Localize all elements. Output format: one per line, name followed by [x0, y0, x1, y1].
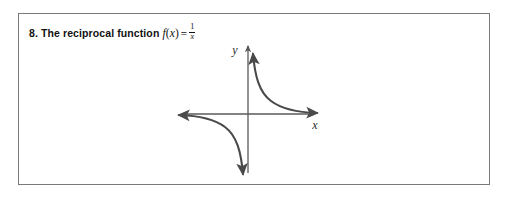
curve-path-negative	[179, 115, 243, 174]
curve-branch-positive	[253, 54, 317, 113]
graph-svg: y x	[19, 14, 491, 186]
y-axis-label: y	[231, 43, 238, 57]
curve-path-positive	[253, 54, 317, 113]
curve-branch-negative	[179, 115, 243, 174]
exercise-card: 8. The reciprocal function f(x)=1x	[18, 13, 490, 185]
reciprocal-function-graph: y x	[19, 14, 491, 186]
axes-group	[184, 46, 315, 173]
x-axis-label: x	[311, 118, 318, 132]
screenshot-root: 8. The reciprocal function f(x)=1x	[0, 0, 505, 200]
